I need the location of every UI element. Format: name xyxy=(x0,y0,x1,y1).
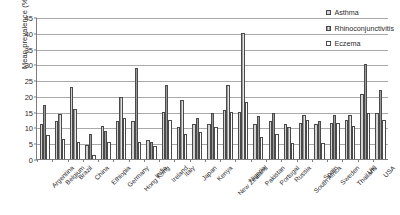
y-tick-label: 30 xyxy=(25,61,33,70)
bar xyxy=(214,127,217,159)
bar xyxy=(62,139,65,160)
bar-group xyxy=(174,18,189,159)
bar xyxy=(336,123,339,159)
y-tick-label: 35 xyxy=(25,45,33,54)
y-tick-label: 10 xyxy=(25,124,33,133)
y-tick-label: 40 xyxy=(25,29,33,38)
bar-group xyxy=(312,18,327,159)
bar-group xyxy=(205,18,220,159)
legend-label: Eczema xyxy=(334,39,360,48)
bar xyxy=(77,142,80,159)
bar xyxy=(382,120,385,159)
legend-item: Rhinoconjunctivitis xyxy=(326,24,394,33)
bar-group xyxy=(297,18,312,159)
bar xyxy=(138,142,141,159)
legend-swatch-icon xyxy=(326,41,331,46)
bar xyxy=(199,132,202,159)
bar xyxy=(352,126,355,159)
bar xyxy=(168,120,171,159)
x-tick-label: China xyxy=(92,164,109,181)
y-tick-label: 0 xyxy=(29,156,33,165)
legend: AsthmaRhinoconjunctivitisEczema xyxy=(326,8,394,48)
bar-group xyxy=(37,18,52,159)
bar xyxy=(184,134,187,159)
x-tick-label: Japan xyxy=(200,164,218,182)
y-tick-label: 15 xyxy=(25,108,33,117)
y-tick-label: 25 xyxy=(25,77,33,86)
legend-item: Asthma xyxy=(326,8,394,17)
bar-group xyxy=(251,18,266,159)
bar xyxy=(291,143,294,159)
bar-group xyxy=(98,18,113,159)
bar xyxy=(123,118,126,159)
bar xyxy=(46,135,49,159)
legend-label: Rhinoconjunctivitis xyxy=(334,24,394,33)
x-tick-label: USA xyxy=(382,164,397,179)
bar xyxy=(245,102,248,159)
bar xyxy=(230,112,233,159)
bar-group xyxy=(266,18,281,159)
bar xyxy=(153,146,156,159)
legend-swatch-icon xyxy=(326,26,331,31)
bar-group xyxy=(159,18,174,159)
bar-group xyxy=(281,18,296,159)
bar-group xyxy=(83,18,98,159)
bar xyxy=(107,142,110,159)
legend-swatch-icon xyxy=(326,10,331,15)
bar-group xyxy=(235,18,250,159)
x-axis-labels: ArgentinaBelgiumBrazilChinaEthiopiaGerma… xyxy=(36,162,388,215)
bar xyxy=(367,113,370,159)
bar-group xyxy=(52,18,67,159)
bar-group xyxy=(220,18,235,159)
bar-group xyxy=(68,18,83,159)
y-tick-label: 5 xyxy=(29,140,33,149)
prevalence-bar-chart: Mean prevalence (%) 051015202530354045 A… xyxy=(0,0,400,215)
bar-group xyxy=(113,18,128,159)
bar-group xyxy=(144,18,159,159)
bar xyxy=(92,155,95,159)
bar-group xyxy=(129,18,144,159)
legend-item: Eczema xyxy=(326,39,394,48)
bar xyxy=(306,120,309,159)
legend-label: Asthma xyxy=(334,8,358,17)
y-tick-label: 45 xyxy=(25,14,33,23)
x-tick-label: Kenya xyxy=(215,164,233,182)
bar xyxy=(275,134,278,159)
bar-group xyxy=(190,18,205,159)
y-tick-label: 20 xyxy=(25,92,33,101)
bar xyxy=(321,143,324,159)
bar xyxy=(260,137,263,159)
